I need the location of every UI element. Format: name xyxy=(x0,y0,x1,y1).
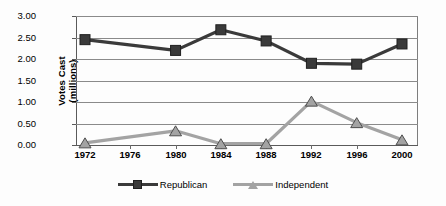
square-marker-icon xyxy=(133,180,142,189)
y-tick-label: 0.00 xyxy=(0,140,36,150)
x-tick-label: 2000 xyxy=(374,149,430,160)
triangle-marker-icon xyxy=(248,181,258,189)
legend-label: Independent xyxy=(275,179,328,190)
y-tick-label: 1.50 xyxy=(0,76,36,86)
y-tick-mark xyxy=(72,145,76,146)
y-tick-label: 0.50 xyxy=(0,119,36,129)
y-tick-label: 2.50 xyxy=(0,33,36,43)
square-marker-icon xyxy=(80,35,90,45)
series-independent xyxy=(79,96,408,149)
y-tick-label: 1.00 xyxy=(0,97,36,107)
legend-swatch xyxy=(233,178,273,191)
plot-area: 3.002.502.001.501.000.500.00 19721976198… xyxy=(76,16,418,145)
y-tick-label: 2.00 xyxy=(0,54,36,64)
series-republican xyxy=(80,25,407,69)
legend-swatch xyxy=(118,178,158,191)
square-marker-icon xyxy=(261,36,271,46)
triangle-marker-icon xyxy=(305,96,317,106)
square-marker-icon xyxy=(306,58,316,68)
square-marker-icon xyxy=(352,59,362,69)
votes-cast-line-chart: Votes Cast (millions) 3.002.502.001.501.… xyxy=(0,0,446,206)
legend-item-independent[interactable]: Independent xyxy=(233,178,328,191)
square-marker-icon xyxy=(397,39,407,49)
legend-label: Republican xyxy=(160,179,208,190)
y-axis-title-line-1: Votes Cast xyxy=(56,56,68,105)
y-tick-label: 3.00 xyxy=(0,11,36,21)
square-marker-icon xyxy=(171,45,181,55)
square-marker-icon xyxy=(216,25,226,35)
chart-legend: RepublicanIndependent xyxy=(0,178,446,191)
series-layer xyxy=(76,16,418,145)
legend-item-republican[interactable]: Republican xyxy=(118,178,208,191)
